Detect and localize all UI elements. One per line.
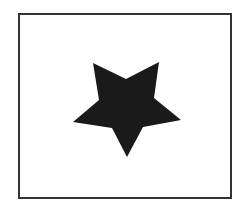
star-icon	[73, 62, 181, 157]
drawing-canvas	[0, 0, 250, 211]
